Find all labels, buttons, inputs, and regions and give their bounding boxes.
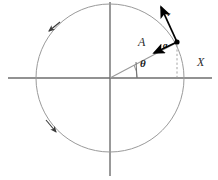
angle-theta-label: θ [140,58,146,69]
amplitude-label: A [138,36,145,48]
lower-left-direction-arrow [46,120,56,132]
circular-motion-figure: A θ X a v [0,0,218,180]
figure-canvas [0,0,218,180]
acceleration-label: a [163,41,168,50]
velocity-label: v [167,11,170,18]
x-axis-label: X [197,56,204,68]
angle-tick-theta [136,62,137,78]
